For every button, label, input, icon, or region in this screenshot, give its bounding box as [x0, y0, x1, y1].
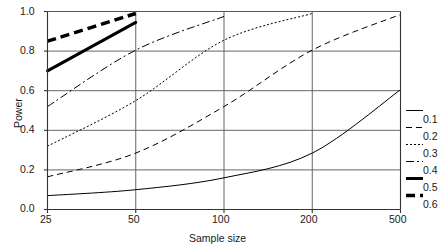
- series-line-0.3: [48, 13, 313, 146]
- chart-figure: Power 1.0 0.8 0.6 0.4 0.2 0.0 25 50 100 …: [0, 0, 442, 249]
- series-line-0.5: [48, 22, 136, 71]
- series-line-0.6: [48, 13, 136, 41]
- legend-swatch-layer: [406, 111, 423, 196]
- chart-canvas: [0, 0, 442, 249]
